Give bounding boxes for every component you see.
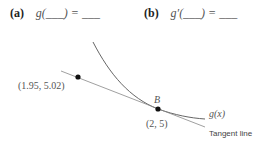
curve-g [93,42,205,119]
curve-label: g(x) [209,108,226,120]
tangent-diagram: (1.95, 5.02) B (2, 5) g(x) Tangent line [0,0,256,150]
tangent-label: Tangent line [209,129,253,138]
point-b-name: B [154,94,160,105]
point-b [155,106,160,111]
point-left-coords: (1.95, 5.02) [18,80,65,92]
point-left [75,74,80,79]
point-b-coords: (2, 5) [146,118,168,130]
tangent-line [61,71,205,127]
